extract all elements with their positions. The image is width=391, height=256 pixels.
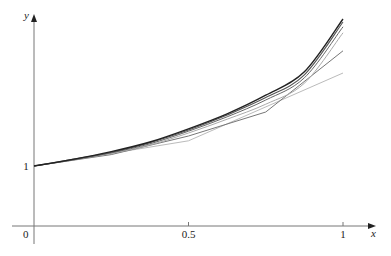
curves [34,19,343,166]
curve-1-exact-line [34,19,343,166]
y-axis-label: y [23,9,29,21]
x-tick-label: 0.5 [182,228,196,240]
curve-4-line [34,33,343,166]
origin-label: 0 [23,228,29,240]
ticks [189,222,344,226]
x-tick-label: 1 [340,228,346,240]
curve-2-line [34,22,343,166]
curve-3-line [34,27,343,166]
y-axis-arrow-icon [31,14,37,22]
y-tick-label: 1 [23,160,29,172]
curve-5-line [34,51,343,166]
tick-labels: 0.511 [23,160,346,240]
x-axis-label: x [370,227,376,239]
chart: x y 0 0.511 [0,0,391,256]
